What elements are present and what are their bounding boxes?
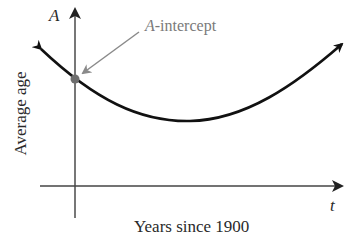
- graph-diagram: A t Years since 1900 Average age A-inter…: [0, 0, 349, 238]
- intercept-label: A-intercept: [145, 18, 216, 34]
- x-axis-label: Years since 1900: [134, 218, 249, 235]
- intercept-suffix: -intercept: [155, 17, 216, 34]
- intercept-callout-arrow: [83, 32, 139, 73]
- x-axis-symbol: t: [330, 197, 335, 214]
- intercept-point: [71, 75, 80, 84]
- graph-svg: [0, 0, 349, 238]
- y-axis-label: Average age: [12, 64, 29, 164]
- y-axis-symbol: A: [49, 7, 59, 24]
- intercept-symbol: A: [145, 17, 155, 34]
- age-curve: [41, 44, 342, 121]
